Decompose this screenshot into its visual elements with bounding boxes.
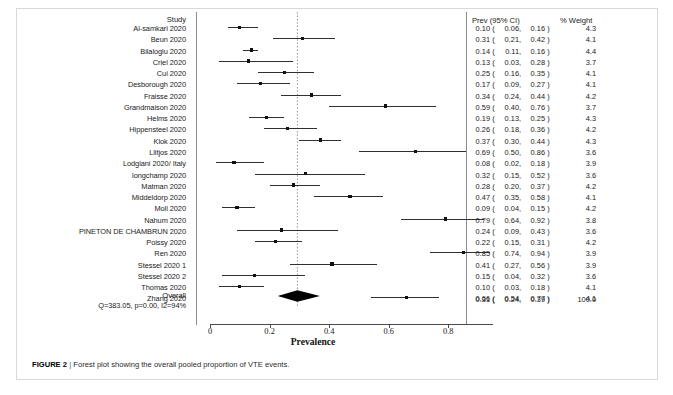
forest-plot-figure: Study Prev (95% CI) % Weight Al-samkari … (0, 0, 673, 395)
prev-ci-value: 0.59(0.40,0.76) (470, 104, 556, 111)
prev-estimate: 0.17 (470, 81, 490, 88)
prev-paren-close: ) (545, 126, 552, 133)
point-estimate-marker (250, 48, 253, 51)
x-axis-tick-label: 0.8 (433, 327, 463, 336)
prev-ci-low: 0.06 (497, 25, 519, 32)
prev-ci-value: 0.85(0.74,0.94) (470, 250, 556, 257)
prev-ci-value: 0.47(0.35,0.58) (470, 194, 556, 201)
prev-ci-value: 0.09(0.04,0.15) (470, 205, 556, 212)
overall-est: 0.31 (470, 296, 490, 303)
point-estimate-marker (265, 116, 268, 119)
confidence-interval-line (216, 162, 264, 163)
weight-value: 3.6 (562, 172, 596, 179)
prev-paren-open: ( (490, 228, 497, 235)
prev-ci-value: 0.17(0.09,0.27) (470, 81, 556, 88)
prev-ci-high: 0.37 (523, 183, 545, 190)
prev-ci-value: 0.69(0.50,0.86) (470, 149, 556, 156)
prev-ci-high: 0.25 (523, 115, 545, 122)
prev-ci-low: 0.40 (497, 104, 519, 111)
weight-value: 3.6 (562, 228, 596, 235)
prev-paren-close: ) (545, 104, 552, 111)
confidence-interval-line (219, 61, 293, 62)
weight-value: 3.9 (562, 250, 596, 257)
weight-value: 4.1 (562, 70, 596, 77)
weight-value: 4.3 (562, 138, 596, 145)
x-axis-tick-label: 0.6 (374, 327, 404, 336)
prev-ci-value: 0.28(0.20,0.37) (470, 183, 556, 190)
prev-ci-value: 0.10(0.06,0.16) (470, 25, 556, 32)
weight-value: 4.2 (562, 239, 596, 246)
prev-ci-high: 0.27 (523, 81, 545, 88)
weight-value: 4.2 (562, 93, 596, 100)
prev-ci-low: 0.64 (497, 217, 519, 224)
prev-paren-open: ( (490, 138, 497, 145)
weight-value: 3.8 (562, 217, 596, 224)
confidence-interval-line (264, 128, 318, 129)
prev-paren-open: ( (490, 239, 497, 246)
prev-estimate: 0.28 (470, 183, 490, 190)
prev-estimate: 0.32 (470, 172, 490, 179)
confidence-interval-line (255, 174, 365, 175)
prev-ci-value: 0.24(0.09,0.43) (470, 228, 556, 235)
weight-value: 3.9 (562, 262, 596, 269)
weight-value: 3.9 (562, 160, 596, 167)
weight-value: 4.4 (562, 48, 596, 55)
prev-ci-low: 0.15 (497, 239, 519, 246)
prev-paren-open: ( (490, 59, 497, 66)
prev-ci-low: 0.03 (497, 59, 519, 66)
prev-estimate: 0.31 (470, 36, 490, 43)
prev-paren-close: ) (545, 239, 552, 246)
prev-ci-low: 0.16 (497, 70, 519, 77)
weight-value: 3.7 (562, 59, 596, 66)
prev-ci-high: 0.58 (523, 194, 545, 201)
prev-paren-open: ( (490, 183, 497, 190)
prev-estimate: 0.85 (470, 250, 490, 257)
prev-ci-low: 0.04 (497, 205, 519, 212)
point-estimate-marker (330, 262, 333, 265)
figure-caption: FIGURE 2 | Forest plot showing the overa… (32, 360, 632, 370)
confidence-interval-line (237, 83, 291, 84)
point-estimate-marker (301, 37, 304, 40)
point-estimate-marker (444, 217, 447, 220)
prev-paren-close: ) (545, 262, 552, 269)
prev-estimate: 0.41 (470, 262, 490, 269)
x-axis-line (210, 324, 493, 325)
weight-value: 3.7 (562, 104, 596, 111)
prev-ci-low: 0.09 (497, 228, 519, 235)
prev-estimate: 0.14 (470, 48, 490, 55)
weight-value: 4.2 (562, 126, 596, 133)
prev-paren-close: ) (545, 149, 552, 156)
prev-ci-low: 0.27 (497, 262, 519, 269)
confidence-interval-line (222, 275, 305, 276)
prev-estimate: 0.10 (470, 25, 490, 32)
prev-paren-open: ( (490, 36, 497, 43)
weight-value: 4.1 (562, 81, 596, 88)
point-estimate-marker (414, 150, 417, 153)
prev-ci-low: 0.74 (497, 250, 519, 257)
prev-paren-close: ) (545, 93, 552, 100)
prev-estimate: 0.22 (470, 239, 490, 246)
prev-ci-value: 0.25(0.16,0.35) (470, 70, 556, 77)
confidence-interval-line (237, 230, 338, 231)
x-axis-tick-label: 0.4 (314, 327, 344, 336)
weight-value: 4.3 (562, 25, 596, 32)
prev-paren-close: ) (545, 250, 552, 257)
prev-ci-low: 0.24 (497, 93, 519, 100)
x-axis-title: Prevalence (253, 336, 373, 347)
confidence-interval-line (228, 27, 258, 28)
prev-ci-low: 0.04 (497, 273, 519, 280)
prev-estimate: 0.59 (470, 104, 490, 111)
prev-estimate: 0.69 (470, 149, 490, 156)
prev-ci-value: 0.13(0.03,0.28) (470, 59, 556, 66)
prev-paren-close: ) (545, 36, 552, 43)
x-axis-tick-label: 0 (195, 327, 225, 336)
overall-prev-value: 0.31(0.24,0.39) (470, 296, 556, 303)
prev-paren-open: ( (490, 93, 497, 100)
overall-paren-close: ) (545, 296, 552, 303)
prev-ci-low: 0.21 (497, 36, 519, 43)
prev-paren-open: ( (490, 115, 497, 122)
prev-ci-high: 0.94 (523, 250, 545, 257)
prev-ci-high: 0.15 (523, 205, 545, 212)
prev-ci-high: 0.52 (523, 172, 545, 179)
point-estimate-marker (253, 274, 256, 277)
